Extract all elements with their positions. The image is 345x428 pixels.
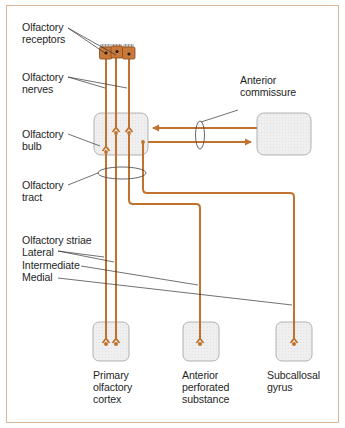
lateral-stria-fibers <box>106 133 116 339</box>
contralateral-bulb-box <box>257 113 311 155</box>
label-subcallosal-gyrus: Subcallosal gyrus <box>267 369 320 393</box>
label-lateral-stria: Lateral <box>22 246 54 258</box>
label-olfactory-striae: Olfactory striae <box>22 234 92 246</box>
olfactory-bulb-box <box>94 113 148 155</box>
label-primary-olfactory-cortex: Primary olfactory cortex <box>93 369 132 406</box>
label-anterior-perforated-substance: Anterior perforated substance <box>182 369 229 406</box>
label-olfactory-receptors: Olfactory receptors <box>22 21 65 45</box>
leader-lines <box>58 28 292 305</box>
label-intermediate-stria: Intermediate <box>22 259 80 271</box>
label-anterior-commissure: Anterior commissure <box>240 74 296 98</box>
medial-stria-fiber <box>143 142 294 339</box>
anterior-commissure-ellipse <box>196 121 205 149</box>
primary-olfactory-cortex-box <box>93 322 129 361</box>
label-olfactory-tract: Olfactory tract <box>22 179 64 203</box>
intermediate-stria-fiber <box>129 133 200 339</box>
label-olfactory-nerves: Olfactory nerves <box>22 71 64 95</box>
olfactory-receptor-cells <box>100 44 136 59</box>
label-medial-stria: Medial <box>22 271 53 283</box>
target-synapse-dots <box>104 342 296 346</box>
label-olfactory-bulb: Olfactory bulb <box>22 128 64 152</box>
olfactory-pathway-diagram <box>0 0 345 428</box>
